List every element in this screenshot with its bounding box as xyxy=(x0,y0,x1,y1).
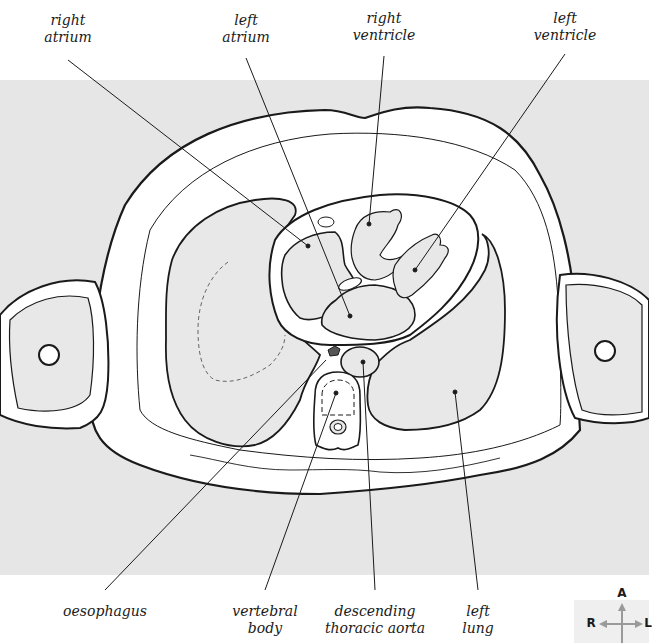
label-descending-thoracic-aorta: descending thoracic aorta xyxy=(325,603,425,637)
vertebra xyxy=(314,372,361,450)
compass-left-label: L xyxy=(644,616,652,630)
small-vessel xyxy=(318,217,334,227)
label-right-ventricle: right ventricle xyxy=(353,10,416,44)
label-vertebral-body: vertebral body xyxy=(232,603,297,637)
compass-anterior-label: A xyxy=(617,586,626,600)
label-left-ventricle: left ventricle xyxy=(534,10,597,44)
left-humerus xyxy=(595,341,615,361)
spinal-canal xyxy=(334,424,342,431)
compass-right-label: R xyxy=(586,616,595,630)
label-oesophagus: oesophagus xyxy=(63,603,147,620)
label-right-atrium: right atrium xyxy=(44,12,91,46)
orientation-compass xyxy=(574,600,649,643)
label-left-lung: left lung xyxy=(462,603,493,637)
label-left-atrium: left atrium xyxy=(222,12,269,46)
right-humerus xyxy=(39,345,59,365)
